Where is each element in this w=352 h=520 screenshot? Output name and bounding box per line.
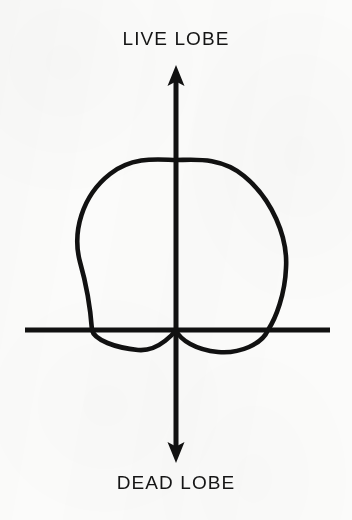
figure-root: LIVE LOBE DEAD LOBE [0, 0, 352, 520]
live-lobe-label: LIVE LOBE [0, 28, 352, 50]
radiation-pattern-diagram [0, 0, 352, 520]
dead-lobe-label: DEAD LOBE [0, 472, 352, 494]
radiation-pattern-curve [77, 159, 286, 352]
